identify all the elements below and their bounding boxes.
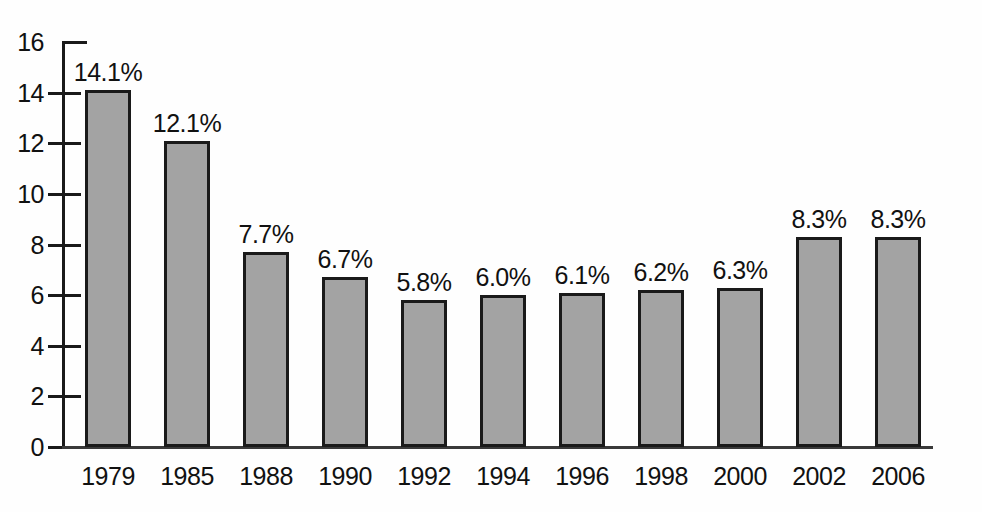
bar[interactable] — [164, 141, 210, 447]
bar[interactable] — [401, 300, 447, 447]
bar-value-label: 5.8% — [385, 268, 463, 296]
bar-group[interactable]: 12.1% — [164, 0, 210, 512]
x-axis-category-label: 1998 — [622, 462, 700, 490]
bar-value-label: 14.1% — [69, 58, 147, 86]
x-axis-category-label: 1990 — [306, 462, 384, 490]
bar-value-label: 6.7% — [306, 245, 384, 273]
y-tick-label: 8 — [0, 230, 44, 260]
y-tick-mark — [48, 92, 81, 95]
bar-group[interactable]: 6.3% — [717, 0, 763, 512]
y-tick-mark — [48, 244, 81, 247]
y-tick-label: 2 — [0, 381, 44, 411]
y-tick-label: 10 — [0, 179, 44, 209]
bar-group[interactable]: 6.0% — [480, 0, 526, 512]
bar-value-label: 12.1% — [148, 109, 226, 137]
bar-value-label: 6.1% — [543, 261, 621, 289]
bar-group[interactable]: 8.3% — [875, 0, 921, 512]
bar-value-label: 8.3% — [859, 205, 937, 233]
x-axis-category-label: 1985 — [148, 462, 226, 490]
bar-group[interactable]: 8.3% — [796, 0, 842, 512]
bar-value-label: 6.2% — [622, 258, 700, 286]
y-tick-label: 4 — [0, 331, 44, 361]
y-tick-mark — [62, 41, 87, 44]
bar[interactable] — [243, 252, 289, 447]
x-axis-category-label: 2006 — [859, 462, 937, 490]
x-axis-category-label: 1994 — [464, 462, 542, 490]
x-axis-category-label: 1996 — [543, 462, 621, 490]
x-axis-category-label: 2000 — [701, 462, 779, 490]
y-tick-label: 14 — [0, 78, 44, 108]
y-tick-label: 12 — [0, 128, 44, 158]
y-tick-mark — [48, 345, 81, 348]
bar[interactable] — [480, 295, 526, 447]
bar-chart: 0246810121416 14.1%12.1%7.7%6.7%5.8%6.0%… — [0, 0, 982, 512]
bar-group[interactable]: 5.8% — [401, 0, 447, 512]
y-tick-mark — [48, 142, 81, 145]
y-tick-mark — [48, 395, 81, 398]
bar[interactable] — [796, 237, 842, 447]
x-axis-category-label: 1979 — [69, 462, 147, 490]
x-axis-category-label: 1992 — [385, 462, 463, 490]
x-axis-category-label: 1988 — [227, 462, 305, 490]
bar-group[interactable]: 14.1% — [85, 0, 131, 512]
bar[interactable] — [638, 290, 684, 447]
bar[interactable] — [559, 293, 605, 447]
y-tick-label: 6 — [0, 280, 44, 310]
bar-group[interactable]: 6.7% — [322, 0, 368, 512]
bar[interactable] — [875, 237, 921, 447]
y-tick-label: 0 — [0, 432, 44, 462]
y-tick-mark — [48, 193, 81, 196]
x-axis-category-label: 2002 — [780, 462, 858, 490]
bar-group[interactable]: 7.7% — [243, 0, 289, 512]
bar-value-label: 6.0% — [464, 263, 542, 291]
bar-value-label: 7.7% — [227, 220, 305, 248]
bar[interactable] — [717, 288, 763, 447]
bar-group[interactable]: 6.2% — [638, 0, 684, 512]
bar-group[interactable]: 6.1% — [559, 0, 605, 512]
bar-value-label: 6.3% — [701, 256, 779, 284]
y-tick-mark — [48, 294, 81, 297]
bar[interactable] — [322, 277, 368, 447]
plot-area: 0246810121416 14.1%12.1%7.7%6.7%5.8%6.0%… — [0, 0, 982, 512]
y-tick-label: 16 — [0, 27, 44, 57]
bar-value-label: 8.3% — [780, 205, 858, 233]
bar[interactable] — [85, 90, 131, 447]
